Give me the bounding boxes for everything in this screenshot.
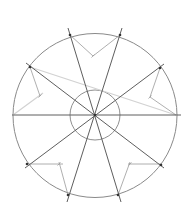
construction-line (150, 68, 160, 97)
division-point (94, 114, 97, 117)
radial-division-lines (12, 28, 181, 202)
circle-division-diagram (0, 0, 192, 212)
division-point (26, 163, 29, 166)
diagram-canvas: Construction of an eight-part radial div… (0, 0, 192, 212)
construction-line (150, 97, 176, 115)
faint-line (30, 67, 176, 115)
division-point (67, 194, 70, 197)
division-point (160, 164, 163, 167)
construction-line (30, 67, 40, 96)
tick-marks (39, 55, 152, 166)
division-point (119, 34, 122, 37)
division-point (69, 34, 72, 37)
faint-line (13, 93, 43, 115)
division-point (29, 66, 32, 69)
division-point (117, 194, 120, 197)
division-point (159, 67, 162, 70)
faint-construction-lines (13, 67, 176, 115)
